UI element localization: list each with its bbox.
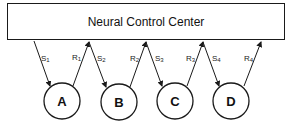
edge-label-r2: R2 (130, 55, 139, 63)
node-label-b: B (109, 96, 129, 109)
edge-label-s1: S1 (41, 55, 50, 63)
edge-label-r3: R3 (186, 55, 195, 63)
node-label-c: C (165, 95, 185, 108)
edge-r2 (130, 42, 146, 87)
control-center-title: Neural Control Center (88, 15, 205, 29)
neural-control-diagram: Neural Control Center A B C D S1 R1 S2 R… (0, 0, 295, 131)
edge-r4 (244, 42, 261, 86)
edge-r3 (187, 42, 203, 86)
edge-label-r4: R4 (244, 55, 253, 63)
node-label-a: A (52, 95, 72, 108)
node-label-d: D (221, 95, 241, 108)
edge-label-s2: S2 (97, 55, 106, 63)
edge-label-s3: S3 (155, 55, 164, 63)
neural-control-center-box: Neural Control Center (7, 3, 285, 40)
edge-label-s4: S4 (212, 55, 221, 63)
edge-s3 (146, 42, 162, 86)
edge-s2 (89, 42, 106, 87)
edge-label-r1: R1 (72, 54, 81, 62)
edge-r1 (73, 42, 89, 86)
edge-s1 (34, 41, 50, 86)
edge-s4 (203, 42, 219, 86)
